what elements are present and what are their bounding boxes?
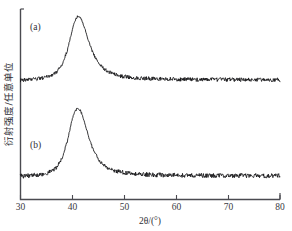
x-tick-label-50: 50	[120, 202, 130, 212]
figure-background	[0, 0, 292, 231]
x-tick-label-40: 40	[68, 202, 78, 212]
xrd-plot-svg: 30 40 50 60 70 80 2θ/(°) 衍射强度/任意单位 (a) (…	[0, 0, 292, 231]
x-tick-label-80: 80	[275, 202, 285, 212]
y-axis-title: 衍射强度/任意单位	[3, 62, 14, 145]
x-axis-title: 2θ/(°)	[139, 216, 161, 227]
x-tick-label-60: 60	[172, 202, 182, 212]
x-tick-label-30: 30	[16, 202, 26, 212]
x-tick-label-70: 70	[224, 202, 234, 212]
curve-a-label: (a)	[30, 22, 41, 33]
xrd-figure: 30 40 50 60 70 80 2θ/(°) 衍射强度/任意单位 (a) (…	[0, 0, 292, 231]
curve-b-label: (b)	[30, 140, 41, 151]
